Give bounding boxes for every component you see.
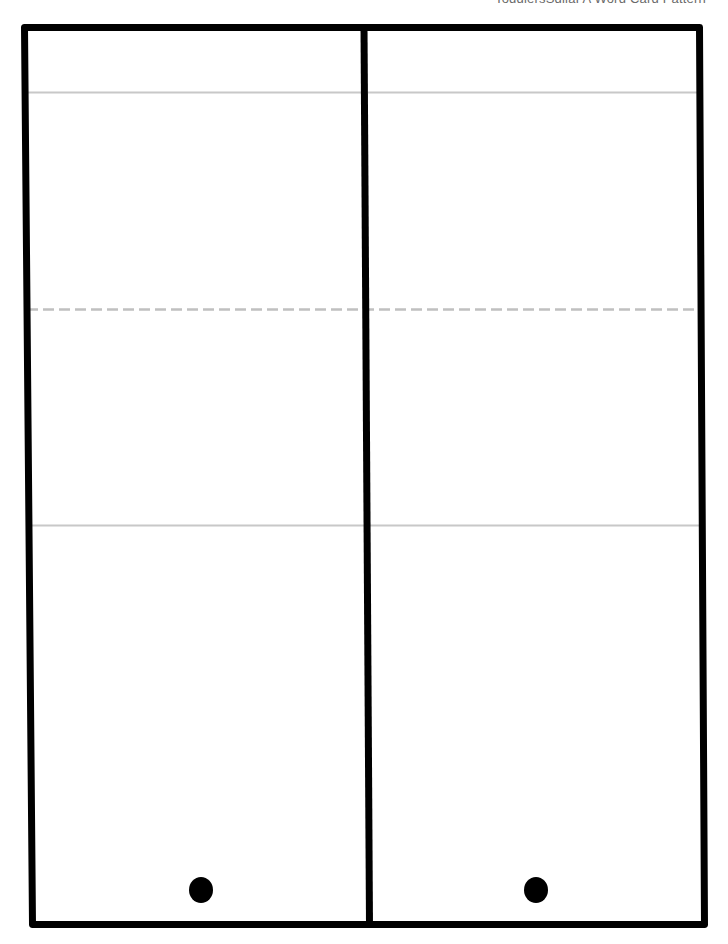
center-divider (364, 27, 370, 925)
card-template-sheet (0, 0, 728, 944)
right-hole-punch-icon (524, 877, 548, 903)
left-hole-punch-icon (189, 877, 213, 903)
